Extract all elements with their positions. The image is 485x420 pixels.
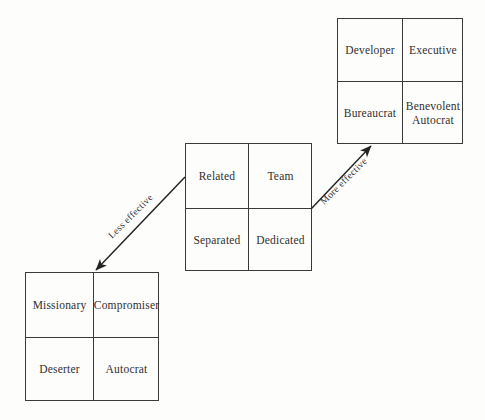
cell-team: Team xyxy=(248,144,313,208)
arrow-label-less-effective: Less effective xyxy=(106,192,154,240)
arrow-less-effective xyxy=(96,177,185,270)
bottom-left-quadrant-grid: Missionary Compromiser Deserter Autocrat xyxy=(25,272,159,401)
top-right-quadrant-grid: Developer Executive Bureaucrat Benevolen… xyxy=(337,18,463,144)
cell-bureaucrat: Bureaucrat xyxy=(338,81,402,145)
quadrant-diagram: Developer Executive Bureaucrat Benevolen… xyxy=(0,0,485,420)
cell-autocrat: Autocrat xyxy=(93,337,160,402)
middle-quadrant-grid: Related Team Separated Dedicated xyxy=(185,143,312,271)
cell-separated: Separated xyxy=(186,208,248,272)
cell-executive: Executive xyxy=(402,19,464,81)
cell-missionary: Missionary xyxy=(26,273,93,337)
cell-benevolent-autocrat: Benevolent Autocrat xyxy=(402,81,464,145)
cell-dedicated: Dedicated xyxy=(248,208,313,272)
arrow-label-more-effective: More effective xyxy=(318,156,369,207)
cell-developer: Developer xyxy=(338,19,402,81)
cell-deserter: Deserter xyxy=(26,337,93,402)
cell-compromiser: Compromiser xyxy=(93,273,160,337)
cell-related: Related xyxy=(186,144,248,208)
